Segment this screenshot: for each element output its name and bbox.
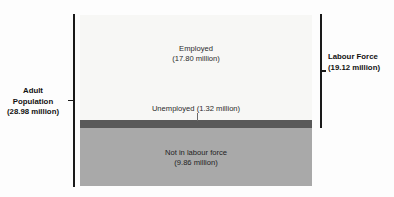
leader-line-unemployed: [197, 113, 198, 121]
band-label-employed-value: (17.80 million): [80, 54, 312, 64]
bracket-label-adult-population: Adult Population (28.98 million): [0, 86, 66, 118]
bracket-label-adult-population-line3: (28.98 million): [0, 107, 66, 118]
bracket-tick-labour-force: [320, 70, 326, 72]
bracket-label-labour-force-line2: (19.12 million): [328, 63, 380, 74]
bracket-label-labour-force-line1: Labour Force: [328, 52, 380, 63]
band-label-not-in-labour-force-name: Not in labour force: [80, 148, 312, 158]
band-unemployed: [80, 120, 312, 128]
band-label-employed-name: Employed: [80, 44, 312, 54]
bracket-label-adult-population-line1: Adult: [0, 86, 66, 97]
band-label-not-in-labour-force-value: (9.86 million): [80, 158, 312, 168]
band-label-unemployed-text: Unemployed (1.32 million): [80, 104, 312, 114]
band-label-unemployed: Unemployed (1.32 million): [80, 104, 312, 114]
bracket-tick-adult-population: [68, 100, 74, 102]
band-label-employed: Employed (17.80 million): [80, 44, 312, 64]
band-label-not-in-labour-force: Not in labour force (9.86 million): [80, 148, 312, 168]
labour-force-diagram: Employed (17.80 million) Unemployed (1.3…: [0, 0, 394, 197]
bracket-label-labour-force: Labour Force (19.12 million): [328, 52, 380, 73]
bracket-label-adult-population-line2: Population: [0, 97, 66, 108]
